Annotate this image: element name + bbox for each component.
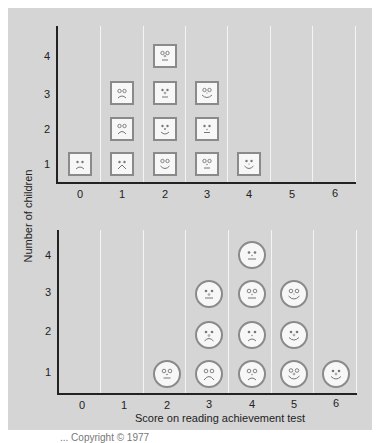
caption-partial: ... Copyright © 1977	[60, 432, 149, 443]
column-separator	[271, 230, 272, 394]
y-tick: 1	[37, 366, 51, 378]
column-separator	[100, 230, 101, 394]
sad-face-circle-icon	[238, 360, 266, 388]
column-separator	[143, 26, 144, 182]
x-tick: 5	[282, 188, 302, 200]
smile-face-circle-icon	[322, 360, 350, 388]
column-separator	[270, 26, 271, 182]
y-tick: 1	[36, 158, 50, 170]
sad-face-square-icon	[110, 117, 134, 141]
smile-face-circle-icon	[280, 321, 308, 349]
neutral-face-square-icon	[153, 44, 177, 68]
neutral-face-square-icon	[153, 81, 177, 105]
smile-face-square-icon	[195, 81, 219, 105]
sad-face-circle-icon	[238, 321, 266, 349]
x-tick: 3	[197, 188, 217, 200]
x-tick: 0	[72, 399, 92, 411]
x-tick: 4	[239, 188, 259, 200]
x-axis	[56, 182, 356, 184]
column-separator	[313, 230, 314, 394]
sad-face-square-icon	[68, 152, 92, 176]
x-tick: 4	[242, 398, 262, 410]
x-tick: 2	[155, 188, 175, 200]
column-separator	[185, 26, 186, 182]
column-separator	[227, 26, 228, 182]
sad-face-circle-icon	[195, 360, 223, 388]
y-tick: 2	[37, 325, 51, 337]
column-separator	[355, 26, 356, 182]
column-separator	[312, 26, 313, 182]
neutral-face-circle-icon	[238, 241, 266, 269]
x-tick: 3	[199, 398, 219, 410]
x-axis	[57, 393, 357, 395]
figure-panel	[8, 8, 372, 430]
smile-face-circle-icon	[280, 280, 308, 308]
neutral-face-circle-icon	[238, 280, 266, 308]
sad-face-square-icon	[110, 152, 134, 176]
y-tick: 4	[37, 249, 51, 261]
x-tick: 1	[114, 399, 134, 411]
x-tick: 1	[112, 188, 132, 200]
smile-face-square-icon	[237, 152, 261, 176]
sad-face-square-icon	[110, 81, 134, 105]
neutral-face-circle-icon	[195, 280, 223, 308]
x-tick: 6	[325, 187, 345, 199]
neutral-face-square-icon	[195, 117, 219, 141]
x-tick: 0	[70, 188, 90, 200]
neutral-face-square-icon	[195, 152, 219, 176]
x-tick: 2	[157, 399, 177, 411]
y-axis-label: Number of children	[22, 166, 34, 266]
sad-face-circle-icon	[195, 321, 223, 349]
y-tick: 3	[36, 88, 50, 100]
column-separator	[356, 230, 357, 394]
x-tick: 5	[284, 398, 304, 410]
smile-face-circle-icon	[280, 360, 308, 388]
column-separator	[143, 230, 144, 394]
column-separator	[185, 230, 186, 394]
smile-face-square-icon	[153, 152, 177, 176]
y-tick: 4	[36, 50, 50, 62]
y-axis	[56, 26, 58, 184]
y-tick: 3	[37, 286, 51, 298]
y-tick: 2	[36, 123, 50, 135]
x-axis-label: Score on reading achievement test	[70, 412, 370, 424]
column-separator	[100, 26, 101, 182]
smile-face-square-icon	[153, 117, 177, 141]
x-tick: 6	[326, 397, 346, 409]
column-separator	[228, 230, 229, 394]
neutral-face-circle-icon	[153, 360, 181, 388]
y-axis	[57, 230, 59, 395]
